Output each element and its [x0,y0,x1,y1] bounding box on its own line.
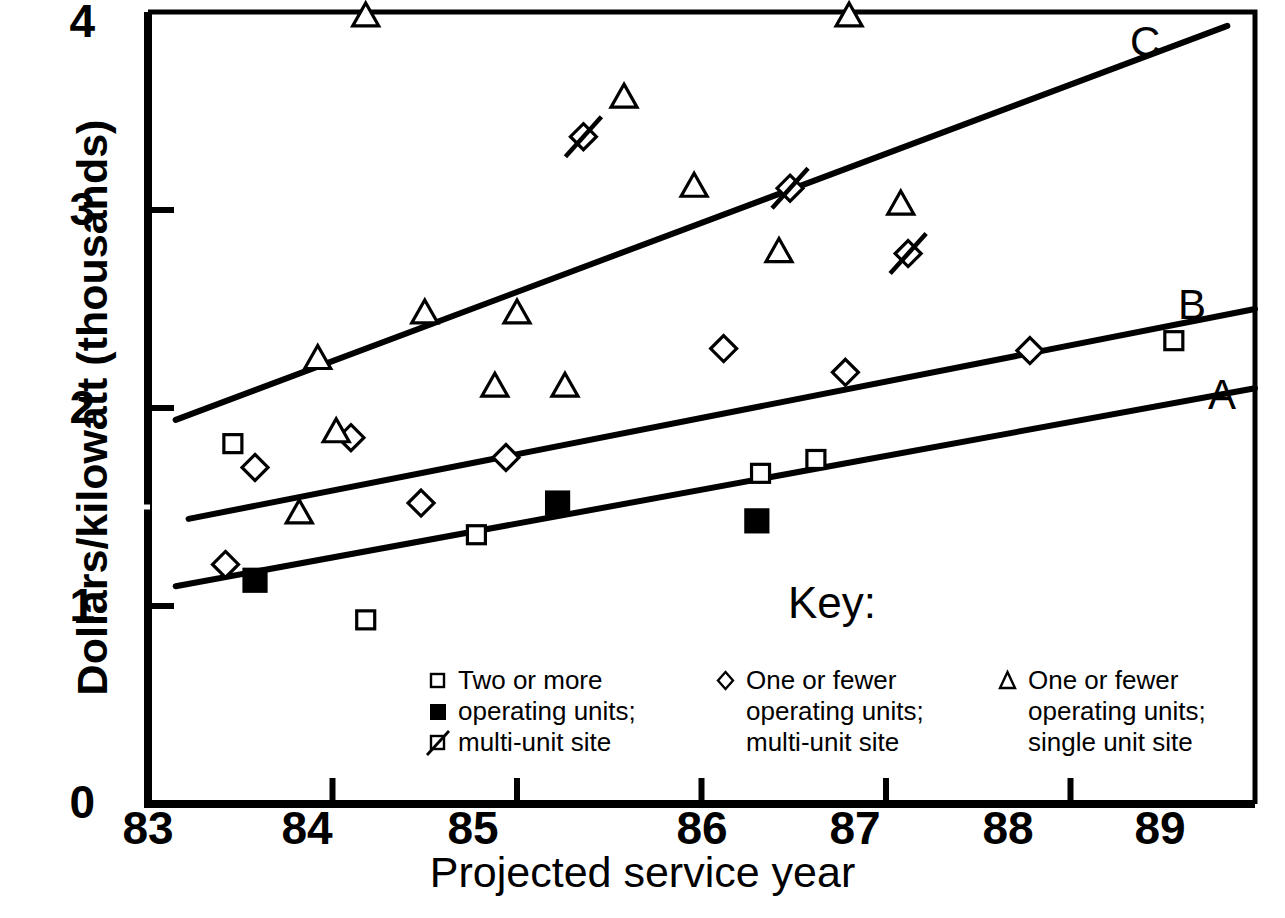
data-point-open-diamond [242,454,268,480]
data-point-open-triangle [681,173,707,196]
data-point-open-diamond [832,359,858,385]
chart-figure: Dollars/kilowatt (thousands) Projected s… [0,0,1285,918]
axis-lines [148,12,1255,804]
data-point-open-triangle [305,346,331,369]
data-point-open-square [224,435,242,453]
data-point-filled-square [746,510,768,532]
data-point-open-diamond [711,336,737,362]
data-point-open-triangle [412,300,438,323]
data-point-open-diamond [408,490,434,516]
data-point-open-triangle [504,300,530,323]
data-point-open-square [467,526,485,544]
plot-area [0,0,1285,918]
data-point-open-triangle [888,191,914,214]
data-point-filled-square [244,569,266,591]
data-point-open-triangle [611,84,637,107]
data-point-open-triangle [766,239,792,262]
data-point-open-diamond [1017,338,1043,364]
data-point-open-square [1165,332,1183,350]
data-point-open-square [807,450,825,468]
plot-border [148,12,1255,804]
data-point-open-triangle [552,373,578,396]
data-point-filled-square [547,492,569,514]
data-point-open-triangle [286,500,312,523]
data-point-open-diamond [493,445,519,471]
data-point-open-triangle [482,373,508,396]
data-point-open-square [752,464,770,482]
data-point-open-square [357,611,375,629]
trend-line-c [176,26,1228,420]
